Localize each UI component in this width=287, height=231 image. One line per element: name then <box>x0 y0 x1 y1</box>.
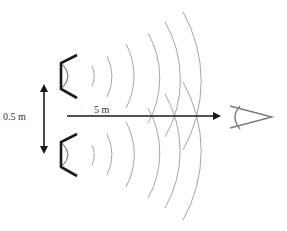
diagram-canvas: 0.5 m 5 m <box>0 0 287 231</box>
speaker-separation-label: 0.5 m <box>3 112 26 122</box>
upper-speaker-icon <box>61 55 77 98</box>
listener-distance-label: 5 m <box>94 105 109 115</box>
diagram-svg <box>0 0 287 231</box>
upper-wavefronts <box>92 12 201 150</box>
lower-wavefronts <box>92 82 201 220</box>
eye-icon <box>230 106 272 129</box>
lower-speaker-icon <box>61 134 77 176</box>
